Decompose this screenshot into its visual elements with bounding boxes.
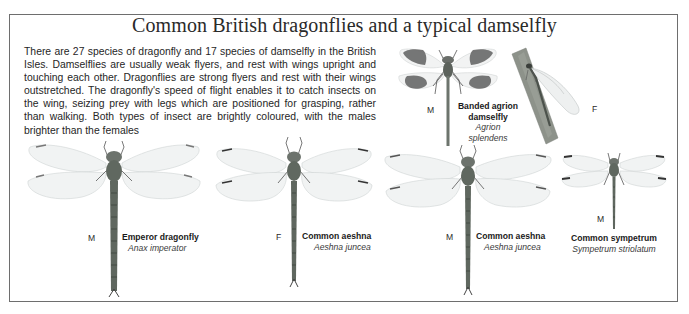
banded-agrion-female-illustration	[508, 48, 598, 148]
species-label-aeshna-male: Common aeshna Aeshna juncea	[476, 231, 545, 252]
common-name: Common aeshna	[476, 231, 545, 242]
scientific-name: Aeshna juncea	[302, 242, 371, 253]
sex-label-emperor: M	[88, 233, 95, 243]
scientific-name: Anax imperator	[122, 243, 199, 254]
scientific-name: Aeshna juncea	[476, 242, 545, 253]
sex-label-sympetrum: M	[597, 214, 604, 224]
common-aeshna-female-illustration	[210, 137, 380, 289]
sex-label-banded-agrion-female: F	[592, 104, 597, 114]
common-name: Emperor dragonfly	[122, 232, 199, 243]
common-name: Common aeshna	[302, 231, 371, 242]
scientific-name: Sympetrum striolatum	[562, 244, 666, 255]
emperor-dragonfly-illustration	[22, 141, 207, 299]
sex-label-aeshna-female: F	[276, 232, 281, 242]
species-label-sympetrum: Common sympetrum Sympetrum striolatum	[562, 233, 666, 254]
sex-label-aeshna-male: M	[446, 232, 453, 242]
intro-paragraph: There are 27 species of dragonfly and 17…	[24, 45, 376, 137]
sex-label-banded-agrion-male: M	[427, 105, 434, 115]
figure-title: Common British dragonflies and a typical…	[0, 14, 689, 37]
common-name: Common sympetrum	[562, 233, 666, 244]
common-aeshna-male-illustration	[380, 149, 556, 297]
species-label-emperor: Emperor dragonfly Anax imperator	[122, 232, 199, 253]
common-sympetrum-illustration	[558, 153, 670, 233]
species-label-aeshna-female: Common aeshna Aeshna juncea	[302, 231, 371, 252]
